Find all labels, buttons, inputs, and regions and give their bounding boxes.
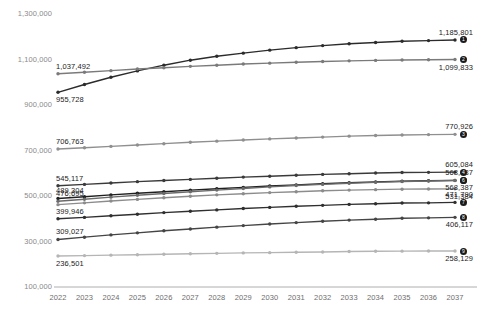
series-start-label: 706,763 [56, 137, 84, 146]
series-badge: 6 [460, 177, 467, 184]
series-end-label: 471,790 [445, 190, 473, 199]
series-badge: 4 [460, 169, 467, 176]
series-badge: 2 [460, 56, 467, 63]
series-start-label: 399,946 [56, 207, 84, 216]
series-start-label: 955,728 [56, 95, 84, 104]
series-start-label: 545,117 [56, 174, 83, 183]
series-start-label: 236,501 [56, 259, 84, 268]
series-start-label: 1,037,492 [56, 62, 90, 71]
series-end-label: 406,117 [446, 220, 473, 229]
series-end-label: 1,185,801 [439, 28, 473, 37]
line-chart: 1,300,0001,100,000900,000700,000500,0003… [0, 0, 483, 319]
series-start-label: 309,027 [56, 227, 84, 236]
series-end-label: 1,099,833 [439, 63, 473, 72]
series-badge: 8 [460, 214, 467, 221]
series-badge: 3 [460, 131, 467, 138]
series-badge: 9 [460, 248, 467, 255]
series-badge: 7 [460, 199, 467, 206]
plot-area [0, 0, 483, 319]
series-end-label: 258,129 [445, 254, 473, 263]
series-end-label: 770,926 [445, 122, 473, 131]
series-start-label: 476,695 [56, 189, 84, 198]
